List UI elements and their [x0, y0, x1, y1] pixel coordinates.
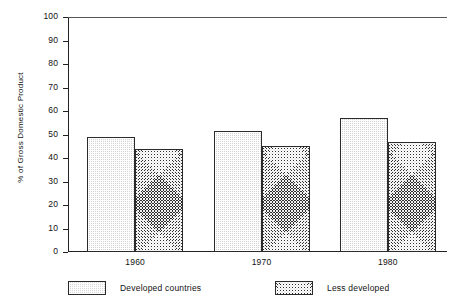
y-tick-label: 60 — [48, 105, 58, 115]
y-tick-label: 30 — [48, 176, 58, 186]
y-tick-label: 50 — [48, 129, 58, 139]
y-tick-label: 10 — [48, 223, 58, 233]
y-tick-mark — [63, 252, 68, 253]
x-tick-label-1960: 1960 — [67, 257, 203, 267]
bar-chart: % of Gross Domestic Product 100908070605… — [0, 0, 460, 306]
y-tick-label: 80 — [48, 58, 58, 68]
y-tick-mark — [63, 17, 68, 18]
y-tick-mark — [63, 205, 68, 206]
y-tick-mark — [63, 41, 68, 42]
bar-1970-developed — [214, 131, 262, 252]
y-tick-mark — [63, 88, 68, 89]
y-tick-label: 0 — [53, 246, 58, 256]
legend-label-developed: Developed countries — [120, 283, 201, 293]
y-tick-mark — [63, 158, 68, 159]
y-tick-label: 70 — [48, 82, 58, 92]
y-tick-label: 100 — [44, 11, 58, 21]
bar-1960-less-developed — [135, 149, 183, 252]
legend-item-developed: Developed countries — [68, 281, 201, 295]
y-tick-mark — [63, 135, 68, 136]
bar-1960-developed — [87, 137, 135, 252]
y-tick-mark — [63, 182, 68, 183]
bar-1980-less-developed — [388, 142, 436, 252]
y-axis-title: % of Gross Domestic Product — [16, 43, 25, 213]
legend-item-less-developed: Less developed — [275, 281, 389, 295]
legend-swatch-less-developed-icon — [275, 281, 313, 295]
y-tick-label: 20 — [48, 199, 58, 209]
plot-top-rule — [68, 17, 447, 18]
legend-swatch-developed-icon — [68, 281, 106, 295]
x-tick-label-1970: 1970 — [194, 257, 330, 267]
y-tick-mark — [63, 229, 68, 230]
bar-1970-less-developed — [262, 146, 310, 252]
y-tick-mark — [63, 111, 68, 112]
legend-label-less-developed: Less developed — [327, 283, 389, 293]
bar-1980-developed — [340, 118, 388, 252]
y-tick-label: 90 — [48, 35, 58, 45]
y-tick-mark — [63, 64, 68, 65]
y-tick-label: 40 — [48, 152, 58, 162]
x-tick-label-1980: 1980 — [320, 257, 456, 267]
